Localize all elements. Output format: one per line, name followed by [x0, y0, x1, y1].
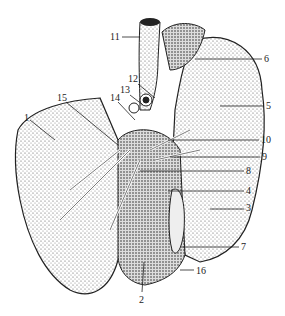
- left-lobe: [172, 37, 264, 262]
- liver-illustration: [0, 0, 285, 316]
- label-15: 15: [57, 93, 67, 103]
- gallbladder: [169, 189, 184, 253]
- label-11: 11: [110, 32, 120, 42]
- label-7: 7: [241, 242, 246, 252]
- label-1: 1: [24, 113, 29, 123]
- label-14: 14: [110, 93, 120, 103]
- right-lobe: [16, 98, 125, 294]
- label-4: 4: [246, 186, 251, 196]
- label-12: 12: [128, 74, 138, 84]
- label-8: 8: [246, 166, 251, 176]
- label-9: 9: [262, 152, 267, 162]
- liver-anatomy-figure: 12345678910111213141516: [0, 0, 285, 316]
- label-16: 16: [196, 266, 206, 276]
- label-2: 2: [139, 295, 144, 305]
- label-10: 10: [261, 135, 271, 145]
- label-3: 3: [246, 203, 251, 213]
- label-13: 13: [120, 85, 130, 95]
- label-5: 5: [266, 101, 271, 111]
- label-6: 6: [264, 54, 269, 64]
